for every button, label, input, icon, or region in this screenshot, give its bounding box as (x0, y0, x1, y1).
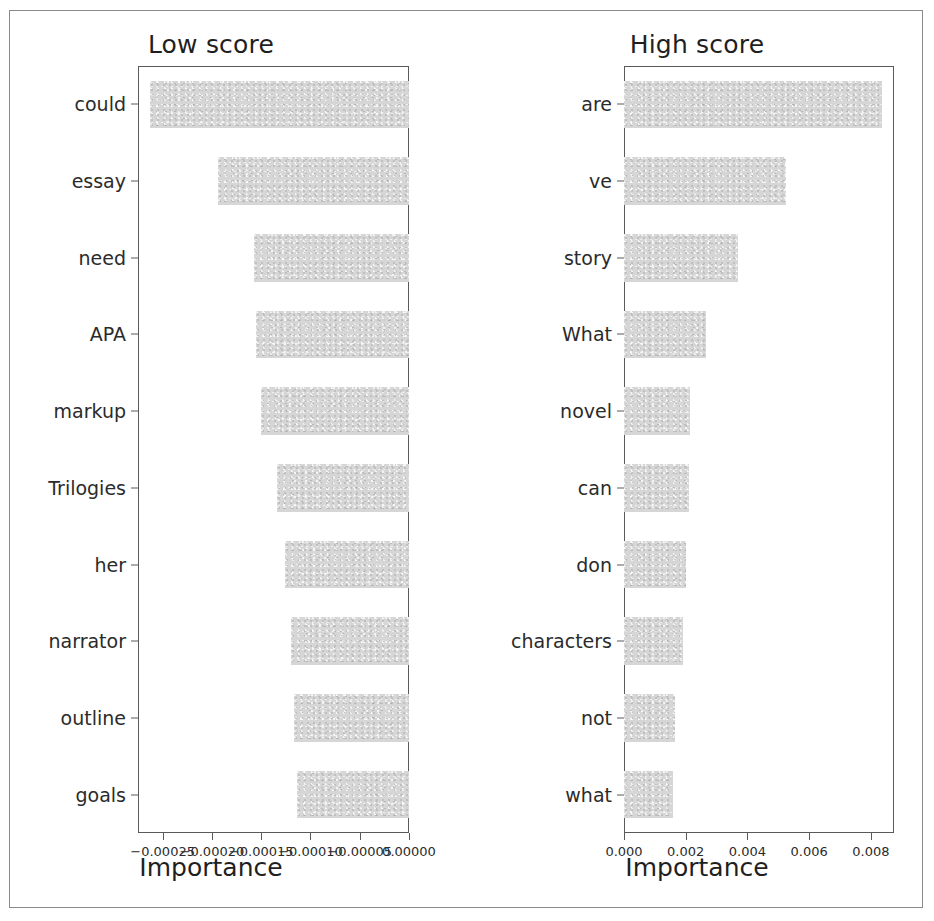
bar (624, 464, 689, 512)
xtick-mark (163, 833, 164, 840)
xtick-mark (747, 833, 748, 840)
xtick-mark (686, 833, 687, 840)
xtick-mark (360, 833, 361, 840)
ytick-mark (617, 717, 624, 718)
bar (624, 694, 675, 742)
ytick-label: are (500, 93, 612, 115)
bar (624, 157, 786, 205)
bar (218, 157, 409, 205)
ytick-label: What (500, 323, 612, 345)
ytick-label: novel (500, 400, 612, 422)
ytick-mark (617, 487, 624, 488)
xtick-mark (212, 833, 213, 840)
ytick-label: characters (500, 630, 612, 652)
bar (624, 234, 738, 282)
bar (624, 311, 706, 359)
bar (624, 387, 690, 435)
xtick-label: 0.004 (729, 844, 766, 859)
ytick-label: don (500, 554, 612, 576)
ytick-mark (131, 794, 138, 795)
ytick-mark (131, 334, 138, 335)
ytick-label: could (14, 93, 126, 115)
bar (624, 81, 882, 129)
ytick-label: what (500, 784, 612, 806)
bar (624, 771, 673, 819)
xtick-label: 0.006 (791, 844, 828, 859)
ytick-mark (617, 794, 624, 795)
ytick-mark (617, 334, 624, 335)
ytick-mark (131, 104, 138, 105)
ytick-mark (131, 181, 138, 182)
ytick-label: Trilogies (14, 477, 126, 499)
ytick-label: story (500, 247, 612, 269)
ytick-mark (131, 257, 138, 258)
ytick-mark (617, 564, 624, 565)
feature-importance-figure: Low score Importance couldessayneedAPAma… (0, 0, 934, 921)
ytick-label: APA (14, 323, 126, 345)
ytick-mark (617, 104, 624, 105)
xtick-label: 0.002 (667, 844, 704, 859)
bar (297, 771, 409, 819)
ytick-mark (131, 717, 138, 718)
xtick-label: 0.000 (605, 844, 642, 859)
ytick-label: need (14, 247, 126, 269)
xtick-mark (809, 833, 810, 840)
panel-high-score: High score Importance arevestoryWhatnove… (500, 30, 920, 890)
ytick-mark (131, 411, 138, 412)
panel-title-low-score: Low score (14, 30, 408, 59)
bar (291, 617, 409, 665)
panel-title-high-score: High score (500, 30, 894, 59)
bar (256, 311, 409, 359)
bar (294, 694, 409, 742)
xtick-mark (409, 833, 410, 840)
ytick-label: ve (500, 170, 612, 192)
ytick-label: markup (14, 400, 126, 422)
xtick-label: 0.00000 (382, 844, 436, 859)
xtick-label: 0.008 (852, 844, 889, 859)
bar (624, 541, 686, 589)
xtick-mark (310, 833, 311, 840)
bar (277, 464, 409, 512)
xtick-mark (624, 833, 625, 840)
xtick-mark (871, 833, 872, 840)
bar (285, 541, 409, 589)
xtick-mark (261, 833, 262, 840)
ytick-mark (617, 257, 624, 258)
ytick-mark (617, 181, 624, 182)
ytick-mark (617, 411, 624, 412)
ytick-label: goals (14, 784, 126, 806)
ytick-mark (131, 641, 138, 642)
panel-low-score: Low score Importance couldessayneedAPAma… (14, 30, 434, 890)
bar (150, 81, 409, 129)
bar (254, 234, 409, 282)
ytick-label: outline (14, 707, 126, 729)
ytick-label: narrator (14, 630, 126, 652)
bar (624, 617, 683, 665)
ytick-mark (617, 641, 624, 642)
bar (261, 387, 409, 435)
ytick-label: not (500, 707, 612, 729)
ytick-label: can (500, 477, 612, 499)
ytick-label: essay (14, 170, 126, 192)
ytick-label: her (14, 554, 126, 576)
ytick-mark (131, 564, 138, 565)
ytick-mark (131, 487, 138, 488)
